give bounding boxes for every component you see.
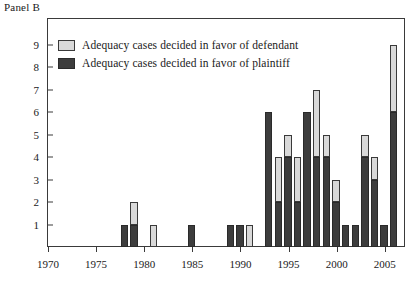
bar-segment-plaintiff [342,225,349,247]
bar-segment-plaintiff [284,157,291,247]
y-axis-tick-mark [47,157,53,158]
bar-segment-plaintiff [390,112,397,247]
bar-segment-defendant [323,135,330,157]
bar-segment-plaintiff [130,225,137,247]
bar-segment-defendant [313,90,320,157]
bar-1979 [130,202,137,247]
bar-2006 [390,45,397,247]
bar-2000 [332,180,339,247]
bar-2005 [380,225,387,247]
bar-2002 [352,225,359,247]
bar-1999 [323,135,330,247]
legend-label-plaintiff: Adequacy cases decided in favor of plain… [82,57,290,70]
y-axis-tick-mark [47,179,53,180]
chart-legend: Adequacy cases decided in favor of defen… [58,38,358,74]
bar-segment-plaintiff [121,225,128,247]
y-axis-tick-mark [47,224,53,225]
bar-1978 [121,225,128,247]
bar-segment-plaintiff [303,112,310,247]
bar-segment-plaintiff [265,112,272,247]
bar-1996 [294,157,301,247]
bar-1995 [284,135,291,247]
bar-segment-plaintiff [323,157,330,247]
bar-segment-defendant [275,157,282,202]
bar-segment-plaintiff [380,225,387,247]
bar-1991 [246,225,253,247]
bar-1993 [265,112,272,247]
bar-segment-plaintiff [371,180,378,247]
bar-segment-defendant [332,180,339,202]
bar-segment-defendant [284,135,291,157]
bar-2004 [371,157,378,247]
y-axis-tick-mark [47,44,53,45]
bar-2001 [342,225,349,247]
bar-segment-plaintiff [332,202,339,247]
bar-1990 [236,225,243,247]
y-axis-tick-mark [47,112,53,113]
bar-segment-plaintiff [313,157,320,247]
bar-segment-defendant [390,45,397,112]
legend-label-defendant: Adequacy cases decided in favor of defen… [82,39,298,52]
bar-segment-plaintiff [188,225,195,247]
bar-segment-defendant [150,225,157,247]
bar-segment-defendant [130,202,137,224]
y-axis-tick-mark [47,134,53,135]
bar-segment-defendant [361,135,368,157]
y-axis-tick-mark [47,67,53,68]
bar-2003 [361,135,368,247]
legend-swatch-plaintiff-icon [58,58,75,69]
bar-1981 [150,225,157,247]
bar-segment-plaintiff [227,225,234,247]
y-axis-tick-mark [47,202,53,203]
legend-item-plaintiff: Adequacy cases decided in favor of plain… [58,56,358,71]
bar-segment-plaintiff [236,225,243,247]
bar-1985 [188,225,195,247]
bar-segment-plaintiff [361,157,368,247]
bar-1997 [303,112,310,247]
legend-item-defendant: Adequacy cases decided in favor of defen… [58,38,358,53]
bar-segment-plaintiff [352,225,359,247]
bar-segment-defendant [246,225,253,247]
bar-1998 [313,90,320,247]
bar-1994 [275,157,282,247]
bar-segment-defendant [371,157,378,179]
legend-swatch-defendant-icon [58,40,75,51]
bar-1989 [227,225,234,247]
y-axis-tick-mark [47,89,53,90]
bar-segment-defendant [294,157,301,202]
bar-segment-plaintiff [294,202,301,247]
bar-segment-plaintiff [275,202,282,247]
